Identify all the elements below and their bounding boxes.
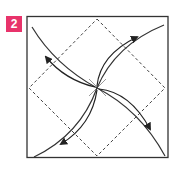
origami-fold-diagram: [0, 0, 179, 169]
curve-line-top-left: [32, 27, 97, 88]
curve-line-top-right: [97, 25, 164, 88]
